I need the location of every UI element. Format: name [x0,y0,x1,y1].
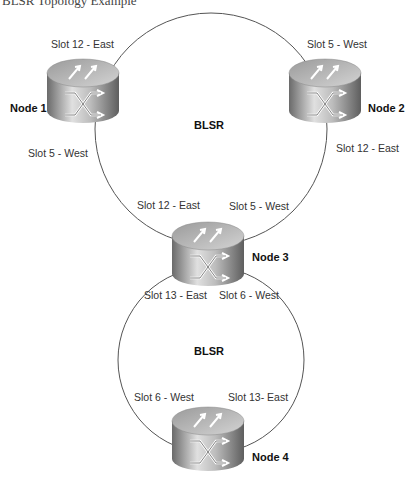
ring-lines [0,0,413,490]
node-4-slot-13-east: Slot 13- East [228,391,288,403]
node-3-label[interactable]: Node 3 [252,251,289,263]
node-3-slot-5-west: Slot 5 - West [229,200,289,212]
node-4-slot-6-west: Slot 6 - West [134,391,194,403]
router-icon-node-3 [172,222,244,286]
ring-label-upper: BLSR [194,119,224,131]
node-2-slot-west: Slot 5 - West [307,38,367,50]
node-1-slot-west: Slot 5 - West [28,147,88,159]
node-2-slot-east: Slot 12 - East [336,142,399,154]
node-2-label[interactable]: Node 2 [368,102,405,114]
node-1-label[interactable]: Node 1 [10,102,47,114]
router-icon-node-4 [172,407,244,471]
node-3-slot-13-east: Slot 13 - East [144,289,207,301]
router-icon-node-2 [289,59,361,123]
node-3-slot-6-west: Slot 6 - West [219,289,279,301]
node-4-label[interactable]: Node 4 [252,451,289,463]
router-icon-node-1 [47,59,119,123]
node-3-slot-12-east: Slot 12 - East [137,199,200,211]
node-1-slot-east: Slot 12 - East [51,38,114,50]
ring-label-lower: BLSR [194,345,224,357]
